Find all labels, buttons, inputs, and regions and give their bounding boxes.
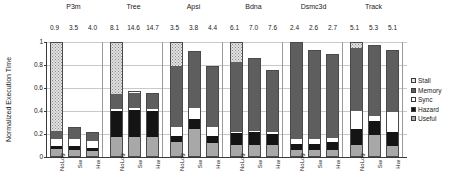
- group-separator: [342, 42, 343, 157]
- stacked-bar: [266, 70, 279, 157]
- bar-segment-hazard: [291, 144, 302, 151]
- bar-value-label: 4.0: [83, 24, 102, 32]
- bar-segment-memory: [111, 94, 122, 109]
- legend-swatch-memory: [411, 88, 416, 93]
- bar-value-label: 5.3: [364, 24, 383, 32]
- legend-swatch-sync: [411, 97, 416, 102]
- bar-segment-hazard: [267, 134, 278, 145]
- chart-legend: StallMemorySyncHazardUseful: [411, 76, 441, 124]
- bar-value-label: 14.7: [143, 24, 162, 32]
- stacked-bar: [50, 42, 63, 157]
- group-title: P3m: [46, 2, 101, 11]
- bar-segment-hazard: [147, 111, 158, 137]
- stacked-bar: [68, 127, 81, 157]
- legend-swatch-hazard: [411, 107, 416, 112]
- legend-item-useful: Useful: [411, 114, 441, 124]
- bar-segment-sync: [387, 112, 398, 132]
- bar-segment-useful: [309, 150, 320, 156]
- x-axis-tick-label: NoLog: [179, 160, 186, 171]
- bar-segment-hazard: [111, 111, 122, 137]
- plot-area: 00.20.40.60.81: [46, 42, 407, 158]
- bar-segment-memory: [51, 131, 62, 139]
- bar-segment-memory: [69, 128, 80, 139]
- bar-segment-hazard: [387, 132, 398, 146]
- stacked-bar: [110, 42, 123, 157]
- group-value-labels: 2.42.62.7: [285, 24, 342, 32]
- x-axis-tick-label: Hw: [395, 160, 402, 171]
- stacked-bar: [230, 42, 243, 157]
- stacked-bar: [368, 45, 381, 157]
- x-axis-tick-label: NoLog: [59, 160, 66, 171]
- legend-label: Useful: [418, 114, 436, 124]
- group-title: Tree: [106, 2, 161, 11]
- bar-segment-useful: [249, 145, 260, 156]
- x-axis-tick-label: NoLog: [239, 160, 246, 171]
- bar-value-label: 8.1: [105, 24, 124, 32]
- bar-segment-hazard: [171, 136, 182, 143]
- y-axis-tick-mark: [44, 42, 47, 43]
- bar-segment-useful: [327, 150, 338, 156]
- legend-label: Hazard: [418, 105, 439, 115]
- group-separator: [282, 42, 283, 157]
- group-title: Apsi: [166, 2, 221, 11]
- y-axis-label: Normalized Execution Time: [3, 42, 14, 157]
- group-value-labels: 3.53.84.4: [165, 24, 222, 32]
- bar-segment-useful: [129, 137, 140, 156]
- bar-segment-useful: [387, 146, 398, 156]
- stacked-bar: [326, 54, 339, 158]
- group-separator: [102, 42, 103, 157]
- bar-segment-memory: [129, 93, 140, 109]
- bar-value-label: 3.8: [184, 24, 203, 32]
- x-axis-tick-label: NoLog: [359, 160, 366, 171]
- chart-figure: Normalized Execution Time 00.20.40.60.81…: [0, 0, 465, 187]
- bar-segment-hazard: [189, 119, 200, 129]
- legend-label: Memory: [418, 86, 441, 96]
- stacked-bar: [248, 58, 261, 157]
- x-axis-tick-label: Sw: [257, 160, 264, 171]
- bar-segment-memory: [207, 67, 218, 127]
- legend-item-memory: Memory: [411, 86, 441, 96]
- y-axis-tick-label: 0.2: [34, 131, 43, 138]
- group-title: Bdna: [226, 2, 281, 11]
- bar-segment-sync: [69, 139, 80, 147]
- bar-segment-sync: [351, 111, 362, 129]
- y-axis-tick-mark: [44, 111, 47, 112]
- stacked-bar: [128, 91, 141, 157]
- group-value-labels: 6.17.07.6: [225, 24, 282, 32]
- stacked-bar: [146, 93, 159, 157]
- y-axis-tick-mark: [44, 88, 47, 89]
- bar-segment-sync: [189, 108, 200, 119]
- bar-value-label: 2.6: [304, 24, 323, 32]
- bar-segment-hazard: [231, 133, 242, 144]
- bar-segment-useful: [207, 143, 218, 156]
- x-axis-tick-label: Sw: [377, 160, 384, 171]
- bar-segment-memory: [327, 55, 338, 138]
- bar-value-label: 5.1: [383, 24, 402, 32]
- y-axis-tick-mark: [44, 65, 47, 66]
- stacked-bar: [386, 50, 399, 157]
- bar-segment-stall: [171, 43, 182, 66]
- y-axis-tick-label: 0.6: [34, 85, 43, 92]
- bar-segment-memory: [387, 51, 398, 112]
- x-axis-tick-label: Sw: [317, 160, 324, 171]
- x-axis-tick-label: Hw: [275, 160, 282, 171]
- group-separator: [222, 42, 223, 157]
- stacked-bar: [308, 50, 321, 157]
- bar-segment-hazard: [129, 110, 140, 137]
- bar-value-label: 3.5: [165, 24, 184, 32]
- bar-segment-useful: [147, 137, 158, 156]
- group-title: Dsmc3d: [286, 2, 341, 11]
- x-axis-tick-label: Hw: [215, 160, 222, 171]
- legend-swatch-useful: [411, 116, 416, 121]
- bar-segment-stall: [231, 43, 242, 62]
- bar-value-label: 7.6: [263, 24, 282, 32]
- y-axis-tick-label: 0.8: [34, 62, 43, 69]
- group-separator: [402, 42, 403, 157]
- bar-value-label: 7.0: [244, 24, 263, 32]
- x-axis-tick-label: Hw: [95, 160, 102, 171]
- bar-segment-useful: [87, 151, 98, 156]
- x-axis-tick-label: NoLog: [299, 160, 306, 171]
- x-axis-tick-label: Sw: [197, 160, 204, 171]
- legend-item-sync: Sync: [411, 95, 441, 105]
- bar-segment-stall: [51, 43, 62, 131]
